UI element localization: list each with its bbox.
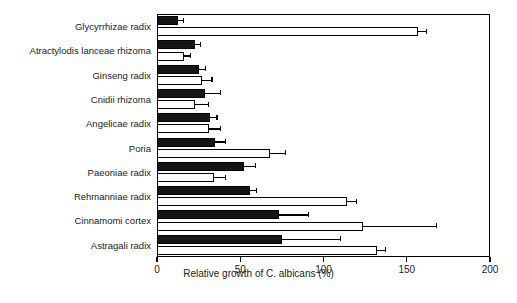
error-bar-cap: [436, 223, 437, 228]
error-bar-cap: [340, 236, 341, 241]
bar-filled: [157, 138, 215, 147]
category-label: Rehmanniae radix: [74, 191, 151, 202]
error-bar-cap: [225, 139, 226, 144]
bar-chart: Glycyrrhizae radixAtractylodis lanceae r…: [0, 0, 517, 303]
bar-filled: [157, 235, 282, 244]
bar-open: [157, 76, 202, 85]
error-bar-cap: [225, 175, 226, 180]
x-tick: [156, 257, 157, 262]
error-bar-line: [270, 153, 285, 154]
error-bar-cap: [256, 188, 257, 193]
category-label: Ginseng radix: [92, 70, 151, 81]
category-label: Cinnamomi cortex: [74, 215, 151, 226]
error-bar-cap: [426, 29, 427, 34]
error-bar-line: [244, 166, 256, 167]
x-axis-title: Relative growth of C. albicans (%): [0, 268, 517, 279]
category-label: Atractylodis lanceae rhizoma: [30, 45, 151, 56]
error-bar-line: [363, 226, 436, 227]
plot-frame: [157, 14, 490, 257]
bar-open: [157, 246, 377, 255]
bar-open: [157, 100, 195, 109]
bar-filled: [157, 89, 205, 98]
error-bar-cap: [200, 42, 201, 47]
error-bar-line: [279, 214, 309, 215]
error-bar-line: [205, 93, 220, 94]
bar-filled: [157, 210, 279, 219]
bar-open: [157, 149, 270, 158]
category-axis-labels: Glycyrrhizae radixAtractylodis lanceae r…: [0, 0, 151, 303]
error-bar-line: [282, 239, 340, 240]
error-bar-cap: [285, 150, 286, 155]
error-bar-cap: [190, 53, 191, 58]
error-bar-cap: [208, 102, 209, 107]
bar-open: [157, 124, 209, 133]
error-bar-line: [214, 177, 226, 178]
bar-open: [157, 197, 347, 206]
category-label: Angelicae radix: [86, 118, 151, 129]
bar-open: [157, 52, 184, 61]
bar-open: [157, 173, 214, 182]
error-bar-cap: [220, 90, 221, 95]
x-tick: [489, 257, 490, 262]
x-tick: [323, 257, 324, 262]
category-label: Glycyrrhizae radix: [75, 21, 151, 32]
bar-filled: [157, 16, 178, 25]
category-label: Poria: [129, 143, 151, 154]
bar-filled: [157, 186, 250, 195]
bar-open: [157, 27, 418, 36]
error-bar-cap: [205, 66, 206, 71]
category-label: Paeoniae radix: [88, 167, 151, 178]
error-bar-line: [209, 128, 221, 129]
x-tick: [240, 257, 241, 262]
bar-filled: [157, 162, 244, 171]
error-bar-cap: [308, 212, 309, 217]
bar-open: [157, 222, 363, 231]
bar-filled: [157, 65, 199, 74]
error-bar-cap: [255, 163, 256, 168]
error-bar-cap: [211, 77, 212, 82]
error-bar-cap: [220, 126, 221, 131]
error-bar-line: [195, 104, 208, 105]
bar-filled: [157, 113, 210, 122]
x-tick: [406, 257, 407, 262]
category-label: Cnidii rhizoma: [91, 94, 151, 105]
error-bar-cap: [183, 18, 184, 23]
error-bar-cap: [385, 247, 386, 252]
bar-filled: [157, 40, 195, 49]
error-bar-cap: [216, 115, 217, 120]
plot-area: 050100150200: [157, 14, 490, 257]
category-label: Astragali radix: [91, 240, 151, 251]
error-bar-cap: [356, 199, 357, 204]
